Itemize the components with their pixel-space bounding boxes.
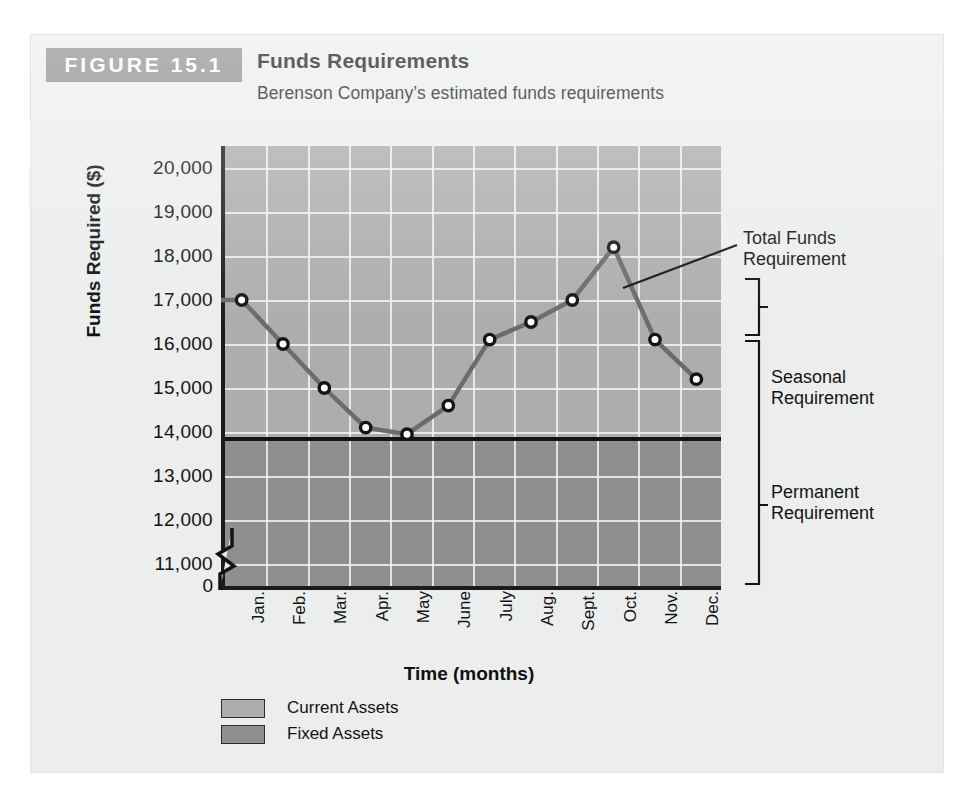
gridline-vertical <box>597 146 599 586</box>
annotation-total-funds-line1: Total Funds <box>743 228 846 249</box>
gridline-vertical <box>266 146 268 586</box>
x-tick-label: Feb. <box>290 591 310 625</box>
x-tick-label: May <box>414 591 434 623</box>
annotation-total-funds-line2: Requirement <box>743 249 846 270</box>
gridline-vertical <box>680 146 682 586</box>
axis-break-icon <box>214 528 240 590</box>
x-tick-label: Mar. <box>331 591 351 624</box>
gridline-vertical <box>432 146 434 586</box>
legend-swatch <box>221 725 265 744</box>
x-tick-label: Sept. <box>579 591 599 631</box>
x-tick-label: Apr. <box>373 591 393 621</box>
x-tick-label: Nov. <box>662 591 682 625</box>
y-tick-label: 13,000 <box>117 465 213 487</box>
x-axis-title: Time (months) <box>221 663 717 685</box>
y-axis-tick-labels: 20,00019,00018,00017,00016,00015,00014,0… <box>103 146 213 586</box>
y-axis-title: Funds Required ($) <box>83 126 105 376</box>
annotation-seasonal-line2: Requirement <box>771 388 874 409</box>
x-tick-label: Aug. <box>538 591 558 626</box>
figure-card: FIGURE 15.1 Funds Requirements Berenson … <box>31 35 943 772</box>
figure-page: FIGURE 15.1 Funds Requirements Berenson … <box>0 0 980 812</box>
y-tick-label: 14,000 <box>117 421 213 443</box>
gridline-vertical <box>349 146 351 586</box>
gridline-vertical <box>638 146 640 586</box>
annotation-seasonal-requirement: Seasonal Requirement <box>771 367 874 409</box>
annotation-permanent-requirement: Permanent Requirement <box>771 482 874 524</box>
y-tick-label: 17,000 <box>117 289 213 311</box>
x-tick-label: Jan. <box>249 591 269 623</box>
x-axis-tick-labels: Jan.Feb.Mar.Apr.MayJuneJulyAug.Sept.Oct.… <box>221 591 717 663</box>
y-tick-label: 16,000 <box>117 333 213 355</box>
y-tick-label: 19,000 <box>117 201 213 223</box>
y-tick-label: 18,000 <box>117 245 213 267</box>
permanent-requirement-line <box>225 437 721 441</box>
legend-item: Current Assets <box>221 697 399 719</box>
chart-legend: Current AssetsFixed Assets <box>221 697 399 749</box>
x-tick-label: June <box>455 591 475 628</box>
figure-number-badge: FIGURE 15.1 <box>46 48 242 82</box>
gridline-vertical <box>473 146 475 586</box>
legend-swatch <box>221 699 265 718</box>
legend-label: Fixed Assets <box>287 724 383 744</box>
gridline-vertical <box>556 146 558 586</box>
legend-item: Fixed Assets <box>221 723 399 745</box>
x-tick-label: Oct. <box>621 591 641 622</box>
figure-title: Funds Requirements <box>257 49 469 73</box>
y-tick-label: 15,000 <box>117 377 213 399</box>
gridline-vertical <box>514 146 516 586</box>
x-tick-label: July <box>497 591 517 621</box>
annotation-permanent-line1: Permanent <box>771 482 874 503</box>
y-axis-zero-label: 0 <box>171 575 213 597</box>
annotation-seasonal-line1: Seasonal <box>771 367 874 388</box>
figure-subtitle: Berenson Company’s estimated funds requi… <box>257 83 664 104</box>
y-tick-label: 11,000 <box>117 553 213 575</box>
gridline-vertical <box>308 146 310 586</box>
y-tick-label: 20,000 <box>117 157 213 179</box>
plot-area <box>221 146 721 590</box>
x-tick-label: Dec. <box>703 591 723 626</box>
y-tick-label: 12,000 <box>117 509 213 531</box>
permanent-bracket <box>745 341 768 584</box>
seasonal-bracket <box>745 279 768 335</box>
gridline-vertical <box>390 146 392 586</box>
annotation-permanent-line2: Requirement <box>771 503 874 524</box>
annotation-total-funds: Total Funds Requirement <box>743 228 846 270</box>
legend-label: Current Assets <box>287 698 399 718</box>
